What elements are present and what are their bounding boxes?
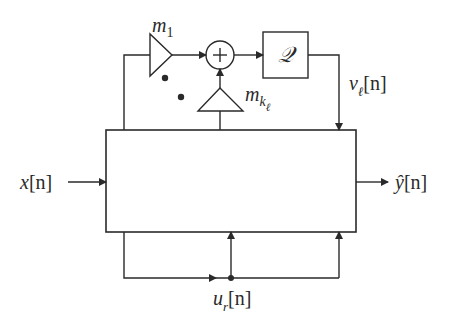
ellipsis-dot-icon bbox=[162, 75, 168, 81]
quantizer-label: 𝒬 bbox=[278, 42, 297, 67]
multiplier-m1-icon bbox=[150, 34, 172, 76]
main-block bbox=[106, 130, 356, 232]
quantizer-output-line bbox=[308, 55, 339, 130]
multiplier-mk-icon bbox=[198, 88, 243, 111]
block-diagram: m1 mkℓ 𝒬 vℓ[n] x[n] ŷ[n] ur[n] bbox=[0, 0, 455, 330]
label-v: vℓ[n] bbox=[349, 72, 387, 99]
label-output: ŷ[n] bbox=[393, 171, 427, 194]
label-input: x[n] bbox=[19, 171, 52, 193]
ellipsis-dot-icon bbox=[178, 94, 184, 100]
label-m1: m1 bbox=[152, 14, 173, 40]
label-mk: mkℓ bbox=[245, 83, 271, 113]
label-feedback: ur[n] bbox=[213, 287, 251, 314]
feed-line-to-m1 bbox=[124, 55, 150, 130]
feedback-loop-line bbox=[124, 232, 216, 278]
